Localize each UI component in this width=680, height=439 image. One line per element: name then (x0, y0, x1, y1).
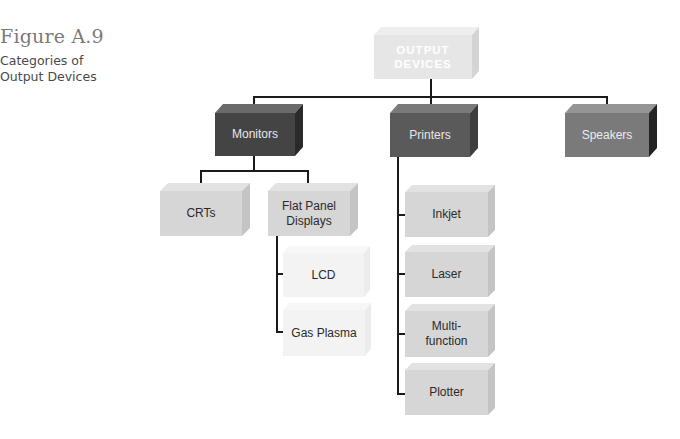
node-label-line1: OUTPUT (396, 43, 449, 57)
connector-root-down (430, 78, 432, 97)
connector-monitors-down (253, 155, 255, 171)
node-label: Printers (390, 113, 470, 157)
node-label: LCD (283, 253, 364, 297)
node-label: CRTs (160, 191, 242, 236)
node-crts: CRTs (160, 183, 250, 236)
node-label-line2: Displays (286, 214, 331, 229)
node-label-line2: function (425, 334, 467, 349)
node-output-devices: OUTPUT DEVICES (374, 27, 479, 79)
node-label-line1: Multi- (432, 319, 461, 334)
node-inkjet: Inkjet (405, 185, 495, 237)
node-laser: Laser (405, 245, 495, 297)
node-label: Inkjet (405, 192, 488, 237)
figure-caption: Categories of Output Devices (0, 53, 130, 85)
node-label: Gas Plasma (283, 310, 365, 356)
connector-flatpanel-trunk (276, 235, 278, 332)
node-monitors: Monitors (215, 104, 303, 156)
node-label: Monitors (215, 113, 295, 156)
node-label: Plotter (405, 370, 488, 415)
node-label: Laser (405, 252, 488, 297)
node-label: Speakers (565, 113, 649, 157)
connector-printers-trunk (397, 156, 399, 394)
node-speakers: Speakers (565, 104, 657, 157)
connector-monitors-bar (200, 170, 308, 172)
node-gas-plasma: Gas Plasma (283, 303, 371, 356)
node-lcd: LCD (283, 246, 370, 297)
node-label-line2: DEVICES (394, 57, 452, 71)
node-label-line1: Flat Panel (282, 199, 336, 214)
node-multifunction: Multi- function (405, 304, 495, 357)
node-printers: Printers (390, 104, 478, 157)
node-plotter: Plotter (405, 363, 495, 415)
node-flat-panel-displays: Flat Panel Displays (268, 183, 358, 236)
figure-number: Figure A.9 (0, 25, 104, 47)
